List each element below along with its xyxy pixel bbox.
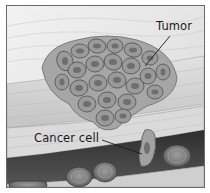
illustration-frame: Tumor Cancer cell <box>6 5 205 188</box>
tumor-label: Tumor <box>156 21 192 33</box>
cancer-cell-label: Cancer cell <box>34 133 99 145</box>
tumor-illustration <box>7 6 204 187</box>
